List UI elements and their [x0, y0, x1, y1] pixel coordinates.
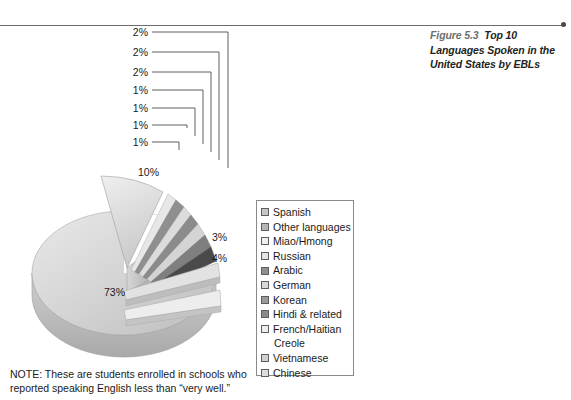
legend-label-german: German	[273, 278, 311, 293]
legend-item-arabic[interactable]: Arabic	[261, 263, 353, 278]
legend-swatch-icon-arabic	[261, 267, 269, 275]
figure-note: NOTE: These are students enrolled in sch…	[10, 368, 280, 395]
legend-label-other-languages: Other languages	[273, 220, 351, 235]
figure-page: Figure 5.3 Top 10 Languages Spoken in th…	[0, 0, 571, 400]
pie-label-spanish: 73%	[104, 286, 125, 298]
pie-label-other-languages: 10%	[138, 166, 159, 178]
callout-label-1: 2%	[122, 26, 148, 38]
legend-label-vietnamese: Vietnamese	[273, 351, 328, 366]
legend-label-russian: Russian	[273, 249, 311, 264]
legend-label-miao-hmong: Miao/Hmong	[273, 234, 333, 249]
legend-item-french-haitian-creole[interactable]: French/Haitian	[261, 322, 353, 337]
legend-swatch-icon-spanish	[261, 208, 269, 216]
leader-line-3	[152, 72, 211, 152]
legend-item-other-languages[interactable]: Other languages	[261, 220, 353, 235]
legend-swatch-icon-vietnamese	[261, 354, 269, 362]
legend-label-hindi-related: Hindi & related	[273, 307, 342, 322]
callout-label-5: 1%	[122, 102, 148, 114]
legend-swatch-icon-german	[261, 281, 269, 289]
legend-label-korean: Korean	[273, 293, 307, 308]
legend-item-vietnamese[interactable]: Vietnamese	[261, 351, 353, 366]
legend-swatch-icon-french-haitian-creole	[261, 325, 269, 333]
legend-item-miao-hmong[interactable]: Miao/Hmong	[261, 234, 353, 249]
legend-item-korean[interactable]: Korean	[261, 293, 353, 308]
legend-swatch-icon-other-languages	[261, 223, 269, 231]
legend-swatch-icon-russian	[261, 252, 269, 260]
legend-swatch-icon-hindi-related	[261, 310, 269, 318]
leader-line-7	[152, 142, 179, 150]
callout-label-3: 2%	[122, 66, 148, 78]
legend-label-creole-continuation: Creole	[261, 336, 353, 351]
legend-label-french-haitian: French/Haitian	[273, 322, 341, 337]
callout-label-6: 1%	[122, 119, 148, 131]
pie-label-vietnamese: 3%	[212, 231, 227, 243]
legend-label-creole: Creole	[274, 336, 305, 351]
callout-label-4: 1%	[122, 84, 148, 96]
legend-item-spanish[interactable]: Spanish	[261, 205, 353, 220]
legend-label-arabic: Arabic	[273, 263, 303, 278]
legend-item-german[interactable]: German	[261, 278, 353, 293]
callout-label-7: 1%	[122, 136, 148, 148]
callout-label-2: 2%	[122, 46, 148, 58]
legend-item-russian[interactable]: Russian	[261, 249, 353, 264]
legend: Spanish Other languages Miao/Hmong Russi…	[256, 200, 354, 376]
pie-label-chinese: 4%	[212, 252, 227, 264]
leader-line-2	[152, 52, 219, 160]
legend-item-hindi-related[interactable]: Hindi & related	[261, 307, 353, 322]
legend-swatch-icon-korean	[261, 296, 269, 304]
leader-line-6	[152, 125, 187, 128]
legend-swatch-icon-miao-hmong	[261, 237, 269, 245]
legend-label-spanish: Spanish	[273, 205, 311, 220]
leader-line-5	[152, 108, 195, 136]
